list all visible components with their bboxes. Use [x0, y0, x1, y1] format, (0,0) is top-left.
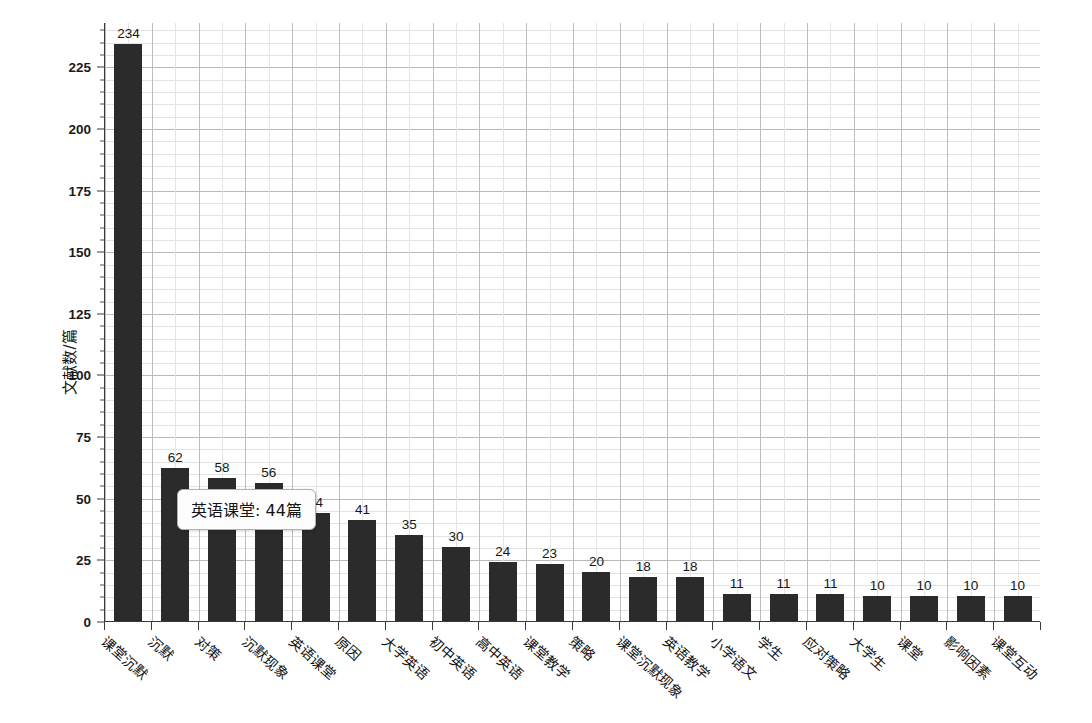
bar-value-label: 23: [542, 546, 557, 561]
y-tick-label: 200: [68, 121, 91, 136]
x-tick-mark: [666, 622, 667, 630]
bar-value-label: 11: [823, 576, 837, 591]
bar[interactable]: 24: [489, 22, 517, 621]
bar-rect[interactable]: [489, 562, 517, 621]
bar-rect[interactable]: [395, 535, 423, 621]
bar[interactable]: 11: [723, 22, 751, 621]
bar-rect[interactable]: [629, 577, 657, 621]
bar-value-label: 10: [870, 578, 885, 593]
bar[interactable]: 10: [957, 22, 985, 621]
bar[interactable]: 11: [770, 22, 798, 621]
y-tick-mark-minor: [100, 30, 104, 31]
y-tick-mark-minor: [100, 264, 104, 265]
bar-rect[interactable]: [910, 596, 938, 621]
bar[interactable]: 10: [910, 22, 938, 621]
bar-rect[interactable]: [723, 594, 751, 621]
y-tick-mark-minor: [100, 153, 104, 154]
bar-rect[interactable]: [957, 596, 985, 621]
x-tick-label[interactable]: 对策: [192, 631, 226, 665]
bar[interactable]: 11: [816, 22, 844, 621]
y-tick-mark-minor: [100, 535, 104, 536]
x-tick-label[interactable]: 课堂教学: [519, 631, 574, 683]
bar[interactable]: 41: [348, 22, 376, 621]
bar[interactable]: 20: [582, 22, 610, 621]
y-tick-mark-minor: [100, 239, 104, 240]
bar-rect[interactable]: [536, 564, 564, 621]
bar-rect[interactable]: [770, 594, 798, 621]
y-tick-mark-minor: [100, 92, 104, 93]
x-tick-label[interactable]: 原因: [332, 631, 366, 665]
bar-rect[interactable]: [676, 577, 704, 621]
bar-rect[interactable]: [1004, 596, 1032, 621]
y-tick-mark-minor: [100, 338, 104, 339]
y-tick-mark-minor: [100, 572, 104, 573]
bar-value-label: 234: [117, 26, 140, 41]
y-tick-mark: [97, 67, 104, 68]
x-tick-mark: [900, 622, 901, 630]
x-tick-label[interactable]: 应对策略: [800, 631, 855, 683]
y-tick-mark-minor: [100, 387, 104, 388]
x-tick-label[interactable]: 高中英语: [472, 631, 527, 683]
y-tick-mark-minor: [100, 548, 104, 549]
bar-value-label: 56: [261, 465, 276, 480]
y-tick-label: 50: [76, 491, 91, 506]
bar[interactable]: 10: [863, 22, 891, 621]
y-tick-mark-minor: [100, 276, 104, 277]
x-tick-label[interactable]: 课堂互动: [987, 631, 1042, 683]
bar[interactable]: 23: [536, 22, 564, 621]
x-tick-label[interactable]: 学生: [753, 631, 787, 665]
bar-value-label: 10: [1010, 578, 1025, 593]
bar-rect[interactable]: [442, 547, 470, 621]
x-tick-label[interactable]: 英语课堂: [285, 631, 340, 683]
bar-value-label: 18: [636, 559, 651, 574]
bar[interactable]: 62: [161, 22, 189, 621]
y-tick-mark-minor: [100, 141, 104, 142]
bar[interactable]: 58: [208, 22, 236, 621]
bar[interactable]: 35: [395, 22, 423, 621]
bar-rect[interactable]: [348, 520, 376, 621]
x-tick-label[interactable]: 大学英语: [379, 631, 434, 683]
y-tick-mark-minor: [100, 227, 104, 228]
y-tick-mark-minor: [100, 301, 104, 302]
bar[interactable]: 10: [1004, 22, 1032, 621]
y-tick-label: 0: [83, 615, 91, 630]
x-tick-mark: [853, 622, 854, 630]
x-tick-mark: [946, 622, 947, 630]
x-tick-label[interactable]: 初中英语: [426, 631, 481, 683]
bar-rect[interactable]: [816, 594, 844, 621]
bar[interactable]: 44: [302, 22, 330, 621]
y-tick-mark: [97, 128, 104, 129]
bar-chart: 文献数/篇 2346258564441353024232018181111111…: [0, 0, 1092, 723]
x-tick-label[interactable]: 课堂: [894, 631, 928, 665]
x-tick-label[interactable]: 策略: [566, 631, 600, 665]
y-tick-mark: [97, 622, 104, 623]
y-tick-label: 100: [68, 368, 91, 383]
x-tick-mark: [619, 622, 620, 630]
bar-rect[interactable]: [114, 44, 142, 621]
y-tick-mark-minor: [100, 42, 104, 43]
plot-area: 2346258564441353024232018181111111010101…: [104, 23, 1040, 622]
x-tick-label[interactable]: 课堂沉默: [98, 631, 153, 683]
bar-value-label: 18: [682, 559, 697, 574]
bar-rect[interactable]: [863, 596, 891, 621]
y-tick-mark-minor: [100, 289, 104, 290]
x-tick-label[interactable]: 沉默: [145, 631, 179, 665]
x-tick-label[interactable]: 影响因素: [940, 631, 995, 683]
x-tick-mark: [291, 622, 292, 630]
x-tick-label[interactable]: 沉默现象: [238, 631, 293, 683]
x-tick-label[interactable]: 小学语文: [706, 631, 761, 683]
y-tick-mark: [97, 560, 104, 561]
bar[interactable]: 18: [629, 22, 657, 621]
bar-value-label: 11: [730, 576, 744, 591]
x-tick-mark: [385, 622, 386, 630]
y-tick-mark-minor: [100, 461, 104, 462]
bar-rect[interactable]: [582, 572, 610, 621]
bar[interactable]: 234: [114, 22, 142, 621]
bar[interactable]: 56: [255, 22, 283, 621]
bar[interactable]: 18: [676, 22, 704, 621]
bar-value-label: 35: [402, 517, 417, 532]
x-tick-mark: [525, 622, 526, 630]
bar[interactable]: 30: [442, 22, 470, 621]
y-tick-label: 125: [68, 306, 91, 321]
y-tick-mark-minor: [100, 55, 104, 56]
